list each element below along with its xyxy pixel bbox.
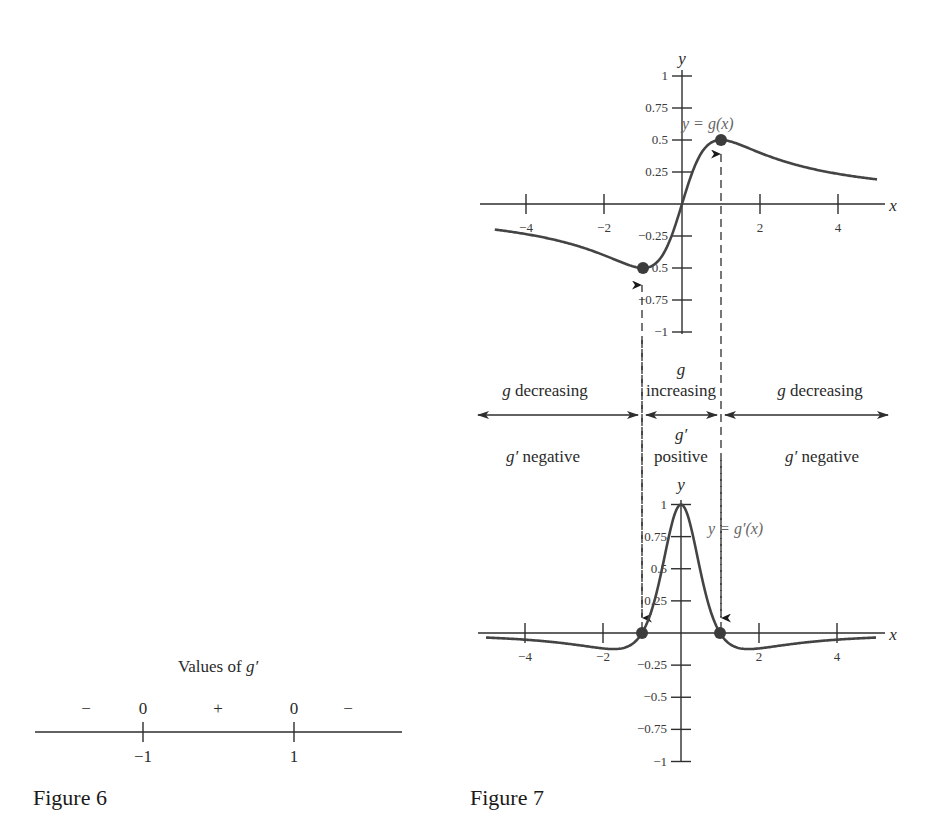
y-tick-label: −0.25 — [638, 228, 668, 243]
zero-at-one: 0 — [290, 699, 299, 718]
x-tick-label: −4 — [518, 649, 532, 664]
y-tick-label: 0.75 — [645, 100, 668, 115]
y-tick-label: −0.25 — [637, 657, 667, 672]
g-function-label: y = g(x) — [680, 115, 734, 133]
region-labels: g decreasing g increasing g decreasing g… — [478, 360, 888, 466]
label-g-decreasing-right: g decreasing — [777, 381, 863, 400]
label-gprime-negative-right: g′ negative — [785, 447, 859, 466]
bottom-x-axis-label: x — [888, 625, 897, 644]
y-tick-label: −1 — [653, 754, 667, 769]
x-tick-label: 2 — [756, 649, 763, 664]
x-tick-label: 2 — [757, 220, 764, 235]
figure-6-title: Values of g′ — [178, 657, 258, 676]
graph-g: x y −4−22410.750.50.25−0.25−0.5−0.75−1 y… — [480, 49, 897, 339]
label-g-middle: g — [677, 360, 686, 379]
top-y-axis-label: y — [676, 49, 686, 68]
label-gprime-middle: g′ — [675, 425, 688, 444]
label-g-decreasing-left: g decreasing — [502, 381, 588, 400]
x-tick-label: 4 — [835, 220, 842, 235]
top-x-axis-label: x — [888, 196, 897, 215]
y-tick-label: 0.25 — [645, 164, 668, 179]
graph-g-prime: x y −4−22410.750.50.25−0.25−0.5−0.75−1 y… — [478, 475, 897, 769]
tick-label-one: 1 — [290, 747, 299, 766]
sign-left: − — [81, 699, 91, 718]
marked-point-dot — [637, 262, 649, 274]
zero-at-minus-one: 0 — [139, 699, 148, 718]
x-tick-label: −2 — [596, 649, 610, 664]
figure-7-caption: Figure 7 — [470, 785, 544, 810]
label-increasing: increasing — [646, 381, 716, 400]
figure-6-caption: Figure 6 — [33, 785, 107, 810]
y-tick-label: −1 — [654, 324, 668, 339]
y-tick-label: 1 — [662, 68, 669, 83]
sign-right: − — [343, 699, 353, 718]
label-positive: positive — [654, 447, 708, 466]
marked-point-dot — [636, 627, 648, 639]
figure-canvas: Values of g′ − 0 + 0 − −1 1 Figure 6 x y… — [0, 0, 939, 828]
y-tick-label: 0.75 — [644, 529, 667, 544]
figure-6-sign-chart: Values of g′ − 0 + 0 − −1 1 Figure 6 — [33, 657, 402, 810]
g-prime-function-label: y = g′(x) — [706, 520, 763, 538]
x-tick-label: 4 — [834, 649, 841, 664]
y-tick-label: −0.75 — [637, 721, 667, 736]
tick-label-minus-one: −1 — [134, 747, 152, 766]
label-gprime-negative-left: g′ negative — [506, 447, 580, 466]
marked-point-dot — [715, 134, 727, 146]
y-tick-label: 0.5 — [652, 132, 668, 147]
y-tick-label: −0.5 — [643, 689, 667, 704]
marked-point-dot — [714, 627, 726, 639]
x-tick-label: −2 — [597, 220, 611, 235]
sign-middle: + — [213, 699, 223, 718]
y-tick-label: 1 — [661, 497, 668, 512]
bottom-y-axis-label: y — [675, 475, 685, 494]
